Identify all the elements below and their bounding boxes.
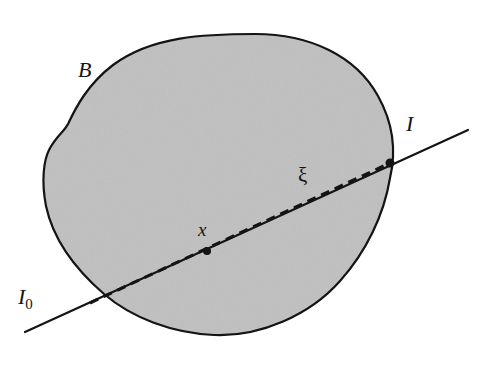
geometry-diagram: B I I0 ξ x <box>0 0 490 365</box>
point-boundary-intersection-marker <box>386 159 395 168</box>
label-region-B: B <box>78 59 91 81</box>
label-line-origin-I0: I0 <box>18 286 33 312</box>
point-x-marker <box>203 247 211 255</box>
label-point-x: x <box>198 220 206 239</box>
label-line-I: I <box>406 113 413 135</box>
label-line-origin-subscript: 0 <box>25 296 32 312</box>
diagram-canvas <box>0 0 490 365</box>
label-chord-xi: ξ <box>298 165 307 186</box>
